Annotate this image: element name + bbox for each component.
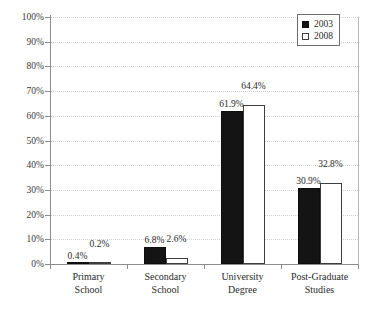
bar-group: 61.9%64.4% bbox=[221, 17, 265, 264]
category-label-line: University bbox=[198, 271, 287, 284]
legend-swatch-icon bbox=[302, 21, 309, 28]
x-tick-mark bbox=[204, 264, 205, 269]
x-axis-category-label: UniversityDegree bbox=[198, 271, 287, 296]
y-axis-tick-label: 100% bbox=[4, 12, 44, 22]
x-tick-mark bbox=[281, 264, 282, 269]
bar-2003-secondary-school[interactable] bbox=[144, 247, 166, 264]
x-axis-category-label: Post-GraduateStudies bbox=[275, 271, 364, 296]
bar-value-label: 0.4% bbox=[58, 251, 98, 262]
bar-2003-primary-school[interactable] bbox=[67, 262, 89, 264]
category-label-line: Post-Graduate bbox=[275, 271, 364, 284]
x-tick-mark bbox=[358, 264, 359, 269]
y-axis-tick-label: 50% bbox=[4, 136, 44, 146]
bar-2008-post-graduate-studies[interactable] bbox=[320, 183, 342, 264]
y-axis-tick-label: 80% bbox=[4, 61, 44, 71]
bar-group: 6.8%2.6% bbox=[144, 17, 188, 264]
category-label-line: Studies bbox=[275, 284, 364, 297]
bar-value-label: 2.6% bbox=[157, 234, 197, 245]
y-axis-tick-label: 20% bbox=[4, 210, 44, 220]
plot-area: 0.4%0.2%6.8%2.6%61.9%64.4%30.9%32.8% bbox=[50, 17, 358, 264]
bar-2008-primary-school[interactable] bbox=[89, 262, 111, 264]
y-axis-tick-label: 40% bbox=[4, 160, 44, 170]
x-axis-category-label: PrimarySchool bbox=[44, 271, 133, 296]
y-axis-tick-label: 0% bbox=[4, 259, 44, 269]
y-axis-tick-label: 70% bbox=[4, 86, 44, 96]
legend-swatch-icon bbox=[302, 33, 309, 40]
bar-value-label: 0.2% bbox=[80, 239, 120, 250]
category-label-line: Secondary bbox=[121, 271, 210, 284]
y-axis-tick-label: 90% bbox=[4, 37, 44, 47]
x-tick-mark bbox=[127, 264, 128, 269]
category-label-line: Primary bbox=[44, 271, 133, 284]
chart-legend: 20032008 bbox=[297, 14, 340, 46]
legend-item-2003[interactable]: 2003 bbox=[302, 18, 333, 30]
y-axis-tick-label: 60% bbox=[4, 111, 44, 121]
legend-item-2008[interactable]: 2008 bbox=[302, 30, 333, 42]
y-axis-tick-label: 10% bbox=[4, 234, 44, 244]
x-axis-category-label: SecondarySchool bbox=[121, 271, 210, 296]
bar-2003-university-degree[interactable] bbox=[221, 111, 243, 264]
category-label-line: Degree bbox=[198, 284, 287, 297]
category-label-line: School bbox=[121, 284, 210, 297]
bar-value-label: 32.8% bbox=[311, 159, 351, 170]
bar-group: 30.9%32.8% bbox=[298, 17, 342, 264]
y-axis-tick-label: 30% bbox=[4, 185, 44, 195]
bar-value-label: 64.4% bbox=[234, 81, 274, 92]
bar-chart: 0%10%20%30%40%50%60%70%80%90%100% 0.4%0.… bbox=[0, 0, 375, 313]
plot-right-border bbox=[358, 17, 359, 265]
legend-label: 2008 bbox=[314, 31, 333, 42]
bar-2008-university-degree[interactable] bbox=[243, 105, 265, 264]
category-label-line: School bbox=[44, 284, 133, 297]
bar-2003-post-graduate-studies[interactable] bbox=[298, 188, 320, 264]
x-tick-mark bbox=[50, 264, 51, 269]
bar-group: 0.4%0.2% bbox=[67, 17, 111, 264]
bar-2008-secondary-school[interactable] bbox=[166, 258, 188, 264]
legend-label: 2003 bbox=[314, 19, 333, 30]
